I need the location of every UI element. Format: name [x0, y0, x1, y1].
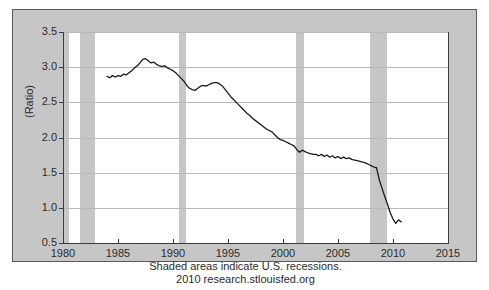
series-line	[107, 59, 401, 224]
x-tick-label: 2015	[424, 247, 472, 259]
x-tick-label: 1980	[39, 247, 87, 259]
y-axis-line	[63, 32, 64, 244]
y-tick-label: 2.0	[13, 132, 57, 143]
source-caption: 2010 research.stlouisfed.org	[13, 273, 478, 286]
y-tick-label: 3.5	[13, 26, 57, 37]
y-tick: 1.5	[13, 167, 57, 178]
recession-caption: Shaded areas indicate U.S. recessions.	[13, 260, 478, 273]
y-tick: 2.5	[13, 96, 57, 107]
y-tick: 2.0	[13, 132, 57, 143]
x-tick-label: 1990	[149, 247, 197, 259]
x-tick-label: 1985	[94, 247, 142, 259]
right-axis-line	[448, 32, 449, 244]
x-axis-line	[63, 243, 449, 244]
y-tick-label: 1.5	[13, 167, 57, 178]
x-tick-label: 2000	[259, 247, 307, 259]
x-tick-label: 1995	[204, 247, 252, 259]
y-axis-label: (Ratio)	[23, 85, 35, 118]
x-tick-label: 2005	[314, 247, 362, 259]
y-tick-label: 2.5	[13, 96, 57, 107]
y-tick: 1.0	[13, 202, 57, 213]
y-tick-label: 1.0	[13, 202, 57, 213]
y-tick: 3.0	[13, 61, 57, 72]
chart-figure: 0.51.01.52.02.53.03.51980198519901995200…	[0, 0, 489, 290]
x-tick-label: 2010	[369, 247, 417, 259]
y-tick: 3.5	[13, 26, 57, 37]
chart-card: 0.51.01.52.02.53.03.51980198519901995200…	[12, 9, 477, 262]
series-canvas	[63, 32, 448, 243]
y-tick-label: 3.0	[13, 61, 57, 72]
